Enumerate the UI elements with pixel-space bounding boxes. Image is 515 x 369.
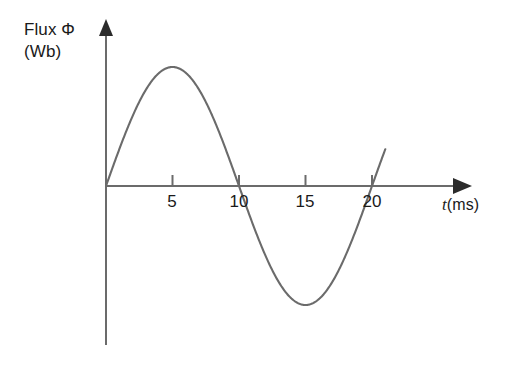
y-axis-arrowhead-icon <box>99 19 113 36</box>
x-tick-label-15: 15 <box>285 192 325 212</box>
x-axis-label: t(ms) <box>442 194 479 216</box>
y-axis-label-quantity: Flux Φ <box>24 19 75 41</box>
x-tick-label-5: 5 <box>152 192 192 212</box>
flux-vs-time-graph: Flux Φ (Wb) t(ms) 5 10 15 20 <box>0 0 515 369</box>
x-tick-label-20: 20 <box>352 192 392 212</box>
y-axis-label: Flux Φ (Wb) <box>24 19 75 63</box>
x-axis-arrowhead-icon <box>453 178 472 194</box>
graph-canvas <box>0 0 515 369</box>
x-tick-label-10: 10 <box>219 192 259 212</box>
y-axis-label-unit: (Wb) <box>24 41 75 63</box>
x-axis-label-unit: (ms) <box>447 196 479 213</box>
